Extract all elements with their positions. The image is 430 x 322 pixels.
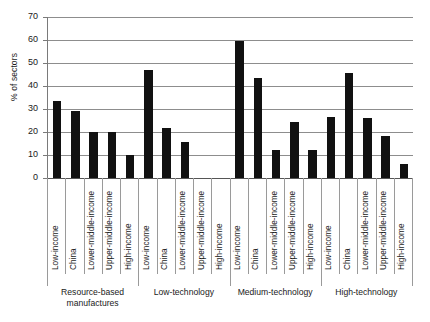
category-separator — [266, 178, 267, 274]
group-separator — [47, 272, 48, 286]
category-axis: Low-incomeChinaLower-middle-incomeUpper-… — [47, 178, 412, 274]
category-label: Lower-middle-income — [178, 191, 187, 270]
bar — [126, 155, 135, 178]
y-tick-label-70: 70 — [8, 11, 38, 21]
group-separator — [230, 272, 231, 286]
bar — [363, 118, 372, 178]
category-separator — [376, 178, 377, 274]
y-tick-label-50: 50 — [8, 57, 38, 67]
category-separator — [47, 178, 48, 274]
category-separator — [193, 178, 194, 274]
category-separator — [211, 178, 212, 274]
category-separator — [394, 178, 395, 274]
category-separator — [65, 178, 66, 274]
category-label: China — [160, 248, 169, 270]
bar — [53, 101, 62, 178]
bar — [290, 122, 299, 178]
category-label: Upper-middle-income — [197, 191, 206, 270]
group-separator — [138, 272, 139, 286]
category-label: High-income — [306, 223, 315, 270]
bar-chart: % of sectors 706050403020100 Low-incomeC… — [0, 0, 430, 322]
group-axis: Resource-based manufacturesLow-technolog… — [47, 274, 412, 320]
bar — [71, 111, 80, 178]
category-label: Low-income — [142, 225, 151, 270]
gridline-60 — [48, 40, 413, 41]
category-label: Lower-middle-income — [87, 191, 96, 270]
category-label: High-income — [215, 223, 224, 270]
category-separator — [102, 178, 103, 274]
group-separator — [412, 272, 413, 286]
category-label: Upper-middle-income — [105, 191, 114, 270]
y-tick-label-20: 20 — [8, 126, 38, 136]
y-tick-label-60: 60 — [8, 34, 38, 44]
category-separator — [321, 178, 322, 274]
group-separator — [321, 272, 322, 286]
category-label: Upper-middle-income — [288, 191, 297, 270]
gridline-40 — [48, 86, 413, 87]
category-separator — [284, 178, 285, 274]
y-tick-label-0: 0 — [8, 172, 38, 182]
gridline-50 — [48, 63, 413, 64]
category-label: High-income — [397, 223, 406, 270]
category-separator — [230, 178, 231, 274]
category-separator — [120, 178, 121, 274]
gridline-30 — [48, 109, 413, 110]
gridline-20 — [48, 132, 413, 133]
bar — [272, 150, 281, 178]
category-label: China — [343, 248, 352, 270]
bar — [144, 70, 153, 178]
bar — [308, 150, 317, 178]
category-separator — [157, 178, 158, 274]
category-label: High-income — [124, 223, 133, 270]
category-separator — [412, 178, 413, 274]
category-separator — [357, 178, 358, 274]
bar — [400, 164, 409, 178]
bar — [89, 132, 98, 178]
y-tick-label-30: 30 — [8, 103, 38, 113]
bar — [254, 78, 263, 178]
category-separator — [303, 178, 304, 274]
category-label: China — [69, 248, 78, 270]
category-separator — [84, 178, 85, 274]
category-label: Low-income — [324, 225, 333, 270]
group-label: Low-technology — [138, 287, 229, 298]
category-label: Low-income — [233, 225, 242, 270]
category-separator — [138, 178, 139, 274]
bar — [381, 136, 390, 178]
bar — [235, 41, 244, 178]
plot-area — [47, 17, 412, 178]
category-label: Upper-middle-income — [379, 191, 388, 270]
bar — [162, 128, 171, 178]
bar — [181, 142, 190, 178]
bar — [108, 132, 117, 178]
group-label: Resource-based manufactures — [47, 287, 138, 309]
y-tick-label-40: 40 — [8, 80, 38, 90]
gridline-70 — [48, 17, 413, 18]
category-label: Lower-middle-income — [361, 191, 370, 270]
category-label: Lower-middle-income — [270, 191, 279, 270]
category-separator — [175, 178, 176, 274]
category-separator — [248, 178, 249, 274]
y-tick-label-10: 10 — [8, 149, 38, 159]
category-label: Low-income — [51, 225, 60, 270]
bar — [345, 73, 354, 178]
category-label: China — [251, 248, 260, 270]
gridline-10 — [48, 155, 413, 156]
group-label: High-technology — [321, 287, 412, 298]
group-label: Medium-technology — [230, 287, 321, 298]
category-separator — [339, 178, 340, 274]
bar — [327, 117, 336, 178]
